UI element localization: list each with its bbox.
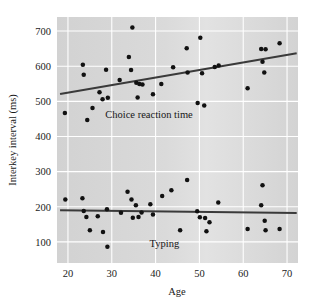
y-tick-label: 600 (35, 61, 51, 72)
data-point (81, 63, 86, 68)
data-point (263, 228, 268, 233)
data-point (136, 215, 141, 220)
series-annotation: Typing (150, 238, 180, 249)
data-point (81, 72, 86, 77)
data-point (151, 92, 156, 97)
data-point (262, 70, 267, 75)
data-point (129, 197, 134, 202)
data-point (105, 245, 110, 250)
data-point (185, 70, 190, 75)
x-tick-label: 50 (194, 268, 205, 279)
data-point (185, 178, 190, 183)
data-point (80, 196, 85, 201)
data-point (195, 209, 200, 214)
data-point (178, 228, 183, 233)
data-point (106, 96, 111, 101)
plot-panel (57, 17, 298, 263)
data-point (88, 228, 93, 233)
data-point (63, 111, 68, 116)
data-point (151, 212, 156, 217)
data-point (203, 216, 208, 221)
x-tick-label: 30 (107, 268, 118, 279)
y-axis-title: Interkey interval (ms) (7, 94, 19, 186)
data-point (195, 101, 200, 106)
x-tick-label: 40 (150, 268, 161, 279)
data-point (159, 82, 164, 87)
data-point (139, 210, 144, 215)
data-point (101, 230, 106, 235)
x-axis-title: Age (168, 286, 186, 297)
data-point (63, 197, 68, 202)
data-point (259, 203, 264, 208)
data-point (263, 47, 268, 52)
data-point (277, 41, 282, 46)
data-point (148, 202, 153, 207)
data-point (84, 215, 89, 220)
data-point (85, 118, 90, 123)
y-tick-label: 400 (35, 131, 51, 142)
y-tick-label: 500 (35, 96, 51, 107)
data-point (204, 229, 209, 234)
data-point (81, 209, 86, 214)
data-point (130, 25, 135, 30)
scatter-plot-figure: Choice reaction timeTyping 203040506070 … (0, 0, 313, 305)
data-point (97, 90, 102, 95)
data-point (129, 68, 134, 73)
x-axis-tick-labels: 203040506070 (63, 268, 293, 279)
data-point (100, 97, 105, 102)
data-point (184, 46, 189, 51)
data-point (212, 65, 217, 70)
data-point (202, 103, 207, 108)
data-point (131, 215, 136, 220)
data-point (245, 227, 250, 232)
data-point (259, 47, 264, 52)
data-point (207, 220, 212, 225)
x-tick-label: 20 (63, 268, 74, 279)
data-point (198, 35, 203, 40)
data-point (262, 219, 267, 224)
data-point (198, 215, 203, 220)
y-tick-label: 700 (35, 26, 51, 37)
data-point (216, 63, 221, 68)
data-point (171, 65, 176, 70)
data-point (105, 207, 110, 212)
data-point (200, 71, 205, 76)
series-annotation: Choice reaction time (105, 109, 193, 120)
data-point (135, 95, 140, 100)
data-point (90, 106, 95, 111)
data-point (117, 78, 122, 83)
y-tick-label: 100 (35, 237, 51, 248)
data-point (96, 214, 101, 219)
y-tick-label: 200 (35, 202, 51, 213)
y-axis-tick-labels: 100200300400500600700 (35, 26, 51, 248)
data-point (104, 67, 109, 72)
data-point (160, 194, 165, 199)
data-point (134, 203, 139, 208)
data-point (260, 183, 265, 188)
data-point (216, 200, 221, 205)
chart-canvas: Choice reaction timeTyping 203040506070 … (0, 0, 313, 305)
data-point (127, 55, 132, 60)
data-point (260, 59, 265, 64)
data-point (169, 188, 174, 193)
data-point (245, 86, 250, 91)
data-point (119, 210, 124, 215)
x-tick-label: 70 (282, 268, 293, 279)
data-point (277, 227, 282, 232)
y-tick-label: 300 (35, 166, 51, 177)
x-tick-label: 60 (238, 268, 249, 279)
data-point (140, 82, 145, 87)
data-point (125, 189, 130, 194)
